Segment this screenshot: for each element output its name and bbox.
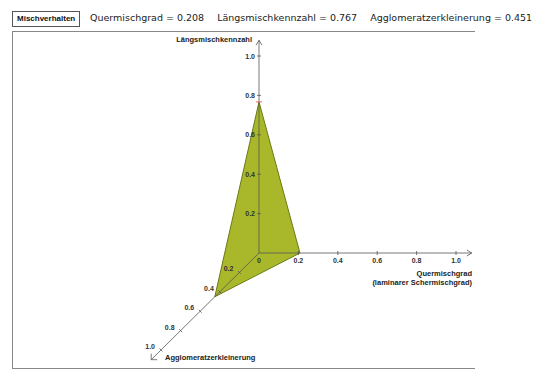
z-axis-line xyxy=(151,253,259,360)
z-tick-label: 0.6 xyxy=(184,304,194,311)
y-tick-label: 0.4 xyxy=(245,171,255,178)
x-tick-label: 0.6 xyxy=(372,257,382,264)
z-tick-label: 0.4 xyxy=(204,285,214,292)
x-tick-label: 0.2 xyxy=(294,257,304,264)
y-tick-label: 0.8 xyxy=(245,92,255,99)
z-tick-label: 0.2 xyxy=(224,265,234,272)
y-tick-label: 0.2 xyxy=(245,210,255,217)
x-tick-label: 0 xyxy=(257,257,261,264)
y-axis-title: Längsmischkennzahl xyxy=(176,35,252,44)
x-tick-label: 0.4 xyxy=(333,257,343,264)
z-axis-title: Agglomeratzerkleinerung xyxy=(165,353,256,362)
y-tick-label: 0.6 xyxy=(245,131,255,138)
z-tick-label: 0.8 xyxy=(165,324,175,331)
x-tick-label: 0.8 xyxy=(412,257,422,264)
x-axis-title-line2: (laminarer Schermischgrad) xyxy=(372,278,472,287)
z-tick-label: 1.0 xyxy=(145,343,155,350)
x-tick-label: 1.0 xyxy=(451,257,461,264)
x-axis-title-line1: Quermischgrad xyxy=(417,269,473,278)
y-tick-label: 1.0 xyxy=(245,53,255,60)
